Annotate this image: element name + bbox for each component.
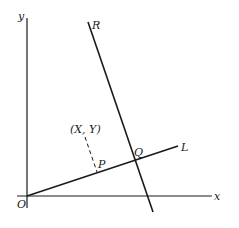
y-axis-label: y [17,10,25,23]
line-l [27,146,178,196]
perpendicular-dashed-line [85,137,97,172]
line-r [88,22,153,212]
x-axis-label: x [214,190,221,203]
line-l-label: L [180,141,188,154]
point-q-label: Q [134,146,143,159]
line-r-label: R [91,19,100,32]
point-p-label: P [97,158,106,171]
diagram-canvas: y x O L R P Q (X, Y) [0,0,239,228]
origin-label: O [17,198,26,211]
point-xy-label: (X, Y) [70,123,101,136]
